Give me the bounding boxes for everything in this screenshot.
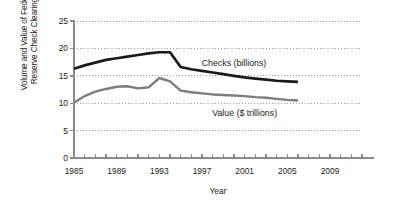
y-axis-title-line2: Reserve Check Clearings [30,0,39,84]
y-tick-label: 10 [48,98,68,108]
x-tick-label: 1997 [182,166,222,176]
x-tick-label: 2009 [310,166,350,176]
x-tick-label: 1989 [97,166,137,176]
check-clearings-line-chart: Volume and Value of FederalReserve Check… [0,0,403,218]
series-label-checks: Checks (billions) [202,58,267,68]
y-tick-label: 25 [48,16,68,26]
x-tick-label: 2005 [267,166,307,176]
y-axis-title-line1: Volume and Value of Federal [20,0,29,90]
y-axis-title-container: Volume and Value of FederalReserve Check… [8,8,42,160]
y-axis-tick-labels: 0 5 10 15 20 25 [44,0,68,218]
x-tick-label: 1985 [54,166,94,176]
x-tick-label: 2001 [225,166,265,176]
y-tick-label: 20 [48,43,68,53]
x-tick-label: 1993 [139,166,179,176]
series-label-value: Value ($ trillions) [212,108,277,118]
y-tick-label: 0 [48,153,68,163]
x-axis-title: Year [158,186,278,196]
y-tick-label: 15 [48,71,68,81]
y-tick-label: 5 [48,126,68,136]
